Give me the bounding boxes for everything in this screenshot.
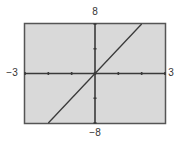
- xmax-label: 3: [168, 67, 174, 78]
- xmin-label: −3: [6, 67, 18, 78]
- ymax-label: 8: [92, 6, 98, 17]
- ymin-label: −8: [89, 127, 101, 138]
- graph-window: 8 −8 −3 3: [0, 0, 174, 141]
